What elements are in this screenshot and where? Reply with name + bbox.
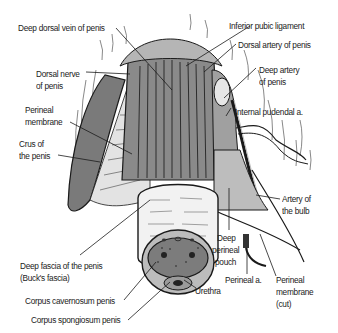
label-deep-perineal-pouch-line3: pouch	[215, 256, 236, 267]
label-corpus-cavernosum: Corpus cavernosum penis	[25, 295, 115, 306]
label-deep-fascia-line1: Deep fascia of the penis	[20, 260, 102, 271]
label-dorsal-nerve-line1: Dorsal nerve	[36, 68, 80, 79]
urethra-lumen	[173, 280, 183, 286]
label-deep-dorsal-vein: Deep dorsal vein of penis	[18, 22, 105, 33]
anatomy-diagram: Deep dorsal vein of penis Inferior pubic…	[0, 0, 338, 333]
label-perineal-membrane-line2: membrane	[25, 116, 62, 127]
label-artery-of-bulb-line1: Artery of	[282, 193, 311, 204]
label-dorsal-artery: Dorsal artery of penis	[238, 39, 311, 50]
label-artery-of-bulb-line2: the bulb	[282, 205, 309, 216]
label-deep-artery-line2: of penis	[259, 76, 286, 87]
label-perineal-artery: Perineal a.	[225, 274, 262, 285]
label-corpus-spongiosum: Corpus spongiosum penis	[31, 314, 120, 325]
label-deep-fascia-line2: (Buck's fascia)	[20, 272, 70, 283]
label-deep-perineal-pouch-line1: Deep	[217, 232, 236, 243]
corpus-cavernosum-section	[148, 238, 208, 278]
label-deep-perineal-pouch-line2: perineal	[212, 244, 239, 255]
label-inferior-pubic-ligament: Inferior pubic ligament	[229, 20, 304, 31]
label-dorsal-nerve-line2: of penis	[36, 80, 63, 91]
label-perineal-membrane-cut-line1: Perineal	[276, 274, 304, 285]
label-internal-pudendal: Internal pudendal a.	[235, 106, 303, 117]
label-crus-line2: the penis	[19, 150, 50, 161]
perineal-artery-cut	[243, 234, 249, 248]
label-perineal-membrane-cut-line2: membrane	[276, 286, 313, 297]
label-perineal-membrane-cut-line3: (cut)	[276, 298, 291, 309]
label-deep-artery-line1: Deep artery	[259, 64, 299, 75]
label-perineal-membrane-line1: Perineal	[25, 104, 53, 115]
deep-artery-cut	[214, 78, 230, 106]
label-urethra: Urethra	[195, 285, 221, 296]
deep-perineal-pouch	[214, 150, 268, 210]
label-crus-line1: Crus of	[19, 138, 44, 149]
